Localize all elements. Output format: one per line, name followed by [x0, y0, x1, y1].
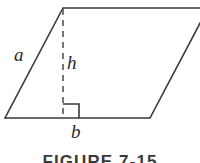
height-label-h: h — [67, 53, 77, 72]
side-length-label-a: a — [14, 45, 24, 64]
right-angle-marker — [63, 104, 79, 118]
figure-container: a h b FIGURE 7-15 — [0, 0, 200, 163]
base-length-label-b: b — [71, 122, 81, 141]
parallelogram-shape — [5, 8, 200, 118]
parallelogram-diagram — [0, 0, 200, 163]
figure-caption: FIGURE 7-15 — [0, 152, 200, 163]
